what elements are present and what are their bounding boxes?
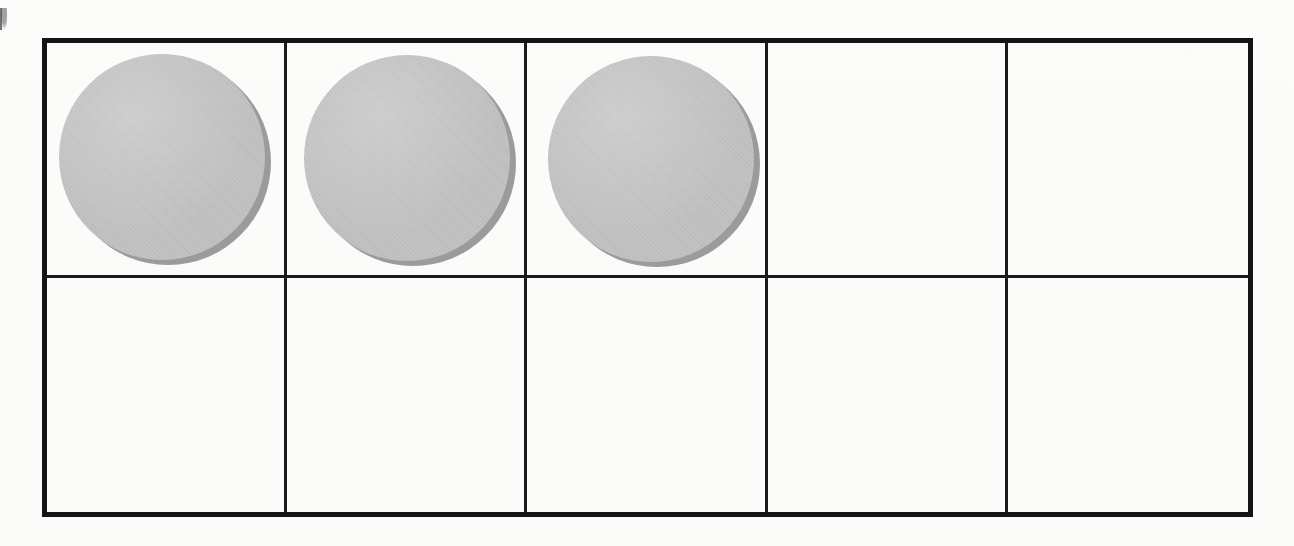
ten-frame-cell-9[interactable] bbox=[768, 278, 1008, 513]
counter-face bbox=[59, 54, 265, 260]
ten-frame-grid bbox=[42, 38, 1253, 517]
ten-frame-cell-3[interactable] bbox=[527, 43, 767, 278]
ten-frame-cell-5[interactable] bbox=[1008, 43, 1248, 278]
counter-1[interactable] bbox=[59, 54, 265, 260]
ten-frame-cell-4[interactable] bbox=[768, 43, 1008, 278]
ten-frame-cell-1[interactable] bbox=[47, 43, 287, 278]
counter-face bbox=[548, 56, 754, 262]
ten-frame-cell-6[interactable] bbox=[47, 278, 287, 513]
counter-3[interactable] bbox=[548, 56, 754, 262]
ten-frame-cell-10[interactable] bbox=[1008, 278, 1248, 513]
ten-frame-cell-2[interactable] bbox=[287, 43, 527, 278]
worksheet-page bbox=[0, 0, 1294, 546]
counter-face bbox=[304, 55, 510, 261]
ten-frame-cell-7[interactable] bbox=[287, 278, 527, 513]
ten-frame-cell-8[interactable] bbox=[527, 278, 767, 513]
counter-2[interactable] bbox=[304, 55, 510, 261]
scanner-edge-mark-icon bbox=[0, 8, 7, 30]
